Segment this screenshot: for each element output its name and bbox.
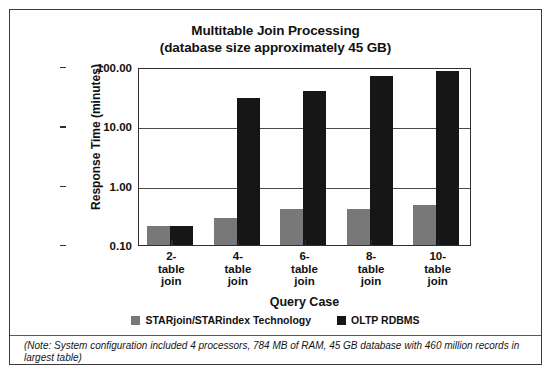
x-axis-tick-mark [305, 240, 306, 246]
x-axis-tick-line: join [203, 275, 273, 288]
bar-starjoin [280, 209, 303, 245]
x-axis-tick-line: join [403, 275, 473, 288]
chart-title-line-1: Multitable Join Processing [10, 22, 541, 39]
y-axis-tick-label: 0.10 [66, 240, 132, 252]
legend-label: OLTP RDBMS [351, 315, 419, 326]
legend-swatch-icon [337, 316, 346, 325]
y-axis-tick-mark [60, 67, 66, 68]
bar-group [405, 69, 472, 245]
chart-figure: Multitable Join Processing (database siz… [9, 9, 542, 365]
x-axis-tick-label: 6-tablejoin [270, 250, 340, 288]
legend-swatch-icon [131, 316, 140, 325]
bar-oltp [237, 98, 260, 245]
x-axis-tick-mark [371, 240, 372, 246]
x-axis-tick-label: 10-tablejoin [403, 250, 473, 288]
bar-starjoin [347, 209, 370, 245]
x-axis-tick-line: 8- [336, 250, 406, 263]
bar-oltp [170, 226, 193, 245]
y-axis-tick-mark [60, 186, 66, 187]
bar-starjoin [214, 218, 237, 245]
x-axis-tick-label: 2-tablejoin [136, 250, 206, 288]
bar-oltp [370, 76, 393, 245]
bar-series-container [139, 69, 470, 245]
x-axis-tick-line: table [403, 263, 473, 276]
chart-footnote: (Note: System configuration included 4 p… [24, 340, 524, 363]
footnote-divider [10, 335, 541, 336]
y-axis-tick-label: 1.00 [66, 181, 132, 193]
x-axis-tick-label: 8-tablejoin [336, 250, 406, 288]
x-axis-tick-mark [438, 240, 439, 246]
legend-item: OLTP RDBMS [337, 315, 419, 326]
legend-item: STARjoin/STARindex Technology [131, 315, 311, 326]
bar-group [339, 69, 406, 245]
x-axis-tick-line: 4- [203, 250, 273, 263]
bar-oltp [436, 71, 459, 245]
x-axis-tick-line: 6- [270, 250, 340, 263]
x-axis-tick-mark [238, 240, 239, 246]
legend-label: STARjoin/STARindex Technology [145, 315, 311, 326]
x-axis-tick-line: join [336, 275, 406, 288]
x-axis-title: Query Case [138, 295, 471, 309]
y-axis-tick-mark [60, 126, 66, 127]
x-axis-tick-line: table [270, 263, 340, 276]
plot-area [138, 68, 471, 246]
x-axis-tick-line: table [336, 263, 406, 276]
bar-starjoin [413, 205, 436, 245]
bar-group [206, 69, 273, 245]
x-axis-tick-line: table [203, 263, 273, 276]
x-axis-tick-line: 10- [403, 250, 473, 263]
x-axis-tick-line: table [136, 263, 206, 276]
chart-legend: STARjoin/STARindex TechnologyOLTP RDBMS [10, 315, 541, 326]
y-axis-tick-mark [60, 245, 66, 246]
bar-starjoin [147, 226, 170, 245]
x-axis-tick-label: 4-tablejoin [203, 250, 273, 288]
x-axis-tick-mark [171, 240, 172, 246]
y-axis-ticks: 100.0010.001.000.10 [62, 68, 132, 246]
x-axis-tick-line: join [270, 275, 340, 288]
y-axis-tick-label: 100.00 [66, 62, 132, 74]
bar-oltp [303, 91, 326, 245]
y-axis-tick-label: 10.00 [66, 121, 132, 133]
x-axis-tick-line: join [136, 275, 206, 288]
bar-group [139, 69, 206, 245]
x-axis-ticks: 2-tablejoin4-tablejoin6-tablejoin8-table… [138, 250, 471, 294]
bar-group [272, 69, 339, 245]
x-axis-tick-line: 2- [136, 250, 206, 263]
